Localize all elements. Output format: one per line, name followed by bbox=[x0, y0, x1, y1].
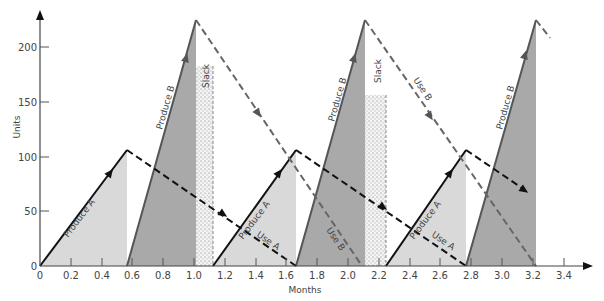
svg-text:1.0: 1.0 bbox=[186, 270, 202, 281]
label-slack-1: Slack bbox=[201, 63, 211, 88]
inventory-chart: 0 50 100 150 200 0 0.2 0.4 0.6 0.8 1.0 1… bbox=[0, 0, 604, 301]
svg-text:0.6: 0.6 bbox=[124, 270, 140, 281]
slack-region-2 bbox=[365, 95, 386, 266]
svg-text:200: 200 bbox=[18, 42, 37, 53]
svg-text:2.0: 2.0 bbox=[340, 270, 356, 281]
svg-text:100: 100 bbox=[18, 152, 37, 163]
svg-text:3.0: 3.0 bbox=[494, 270, 510, 281]
label-slack-2: Slack bbox=[373, 58, 383, 83]
svg-text:2.6: 2.6 bbox=[432, 270, 448, 281]
svg-text:1.8: 1.8 bbox=[309, 270, 325, 281]
svg-text:1.6: 1.6 bbox=[278, 270, 294, 281]
slack-region-1 bbox=[196, 66, 213, 266]
svg-text:0.4: 0.4 bbox=[94, 270, 110, 281]
y-axis-arrow-icon bbox=[36, 10, 44, 20]
svg-text:1.2: 1.2 bbox=[217, 270, 233, 281]
produce-a-fills bbox=[40, 150, 466, 266]
svg-text:0: 0 bbox=[37, 270, 43, 281]
arrow-icon bbox=[252, 107, 264, 119]
label-use-b-2: Use B bbox=[411, 76, 434, 103]
y-axis-title: Units bbox=[12, 115, 22, 138]
y-tick-labels: 0 50 100 150 200 bbox=[18, 42, 37, 272]
svg-text:0.8: 0.8 bbox=[155, 270, 171, 281]
x-axis-title: Months bbox=[289, 285, 322, 295]
svg-text:3.4: 3.4 bbox=[556, 270, 572, 281]
svg-text:150: 150 bbox=[18, 97, 37, 108]
svg-text:0.2: 0.2 bbox=[63, 270, 79, 281]
svg-text:2.8: 2.8 bbox=[463, 270, 479, 281]
svg-text:2.2: 2.2 bbox=[371, 270, 387, 281]
x-tick-labels: 0 0.2 0.4 0.6 0.8 1.0 1.2 1.4 1.6 1.8 2.… bbox=[37, 270, 572, 281]
x-axis-arrow-icon bbox=[583, 262, 593, 270]
svg-text:2.4: 2.4 bbox=[402, 270, 418, 281]
svg-text:3.2: 3.2 bbox=[525, 270, 541, 281]
svg-text:1.4: 1.4 bbox=[248, 270, 264, 281]
svg-text:50: 50 bbox=[24, 206, 37, 217]
